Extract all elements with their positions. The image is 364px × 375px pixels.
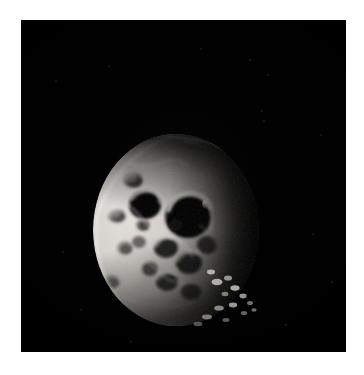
- image-page: [0, 0, 364, 375]
- surface-grain: [93, 132, 263, 330]
- moon-disc: [91, 132, 263, 330]
- moon-stage: [21, 20, 346, 352]
- image-frame: [21, 20, 346, 352]
- cratered-moon-illustration: [21, 20, 346, 352]
